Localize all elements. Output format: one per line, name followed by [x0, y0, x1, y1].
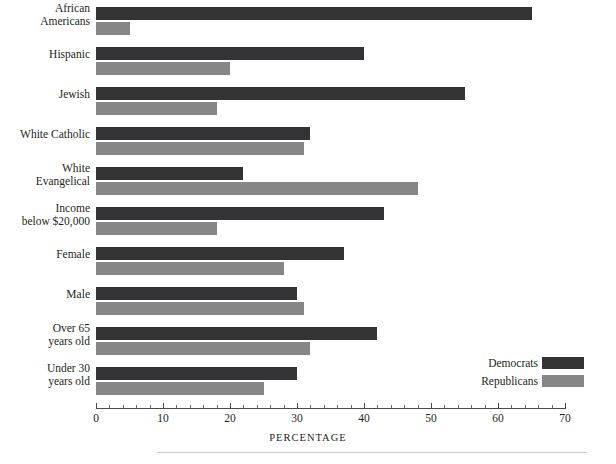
x-tick-minor: [404, 405, 405, 408]
x-tick-major: [498, 403, 499, 409]
category-label-line: Income: [4, 202, 90, 215]
legend-swatch-democrats: [542, 357, 584, 369]
category-label-line: Female: [4, 248, 90, 261]
category-label-line: Over 65: [4, 322, 90, 335]
category-label-line: Male: [4, 288, 90, 301]
bar-democrats: [96, 87, 465, 100]
x-tick-major: [364, 403, 365, 409]
x-tick-minor: [203, 405, 204, 408]
x-tick-minor: [485, 405, 486, 408]
x-tick-minor: [471, 405, 472, 408]
x-tick-minor: [310, 405, 311, 408]
x-tick-minor: [324, 405, 325, 408]
category-label: Hispanic: [4, 48, 90, 61]
bar-democrats: [96, 367, 297, 380]
bar-democrats: [96, 7, 532, 20]
category-label-line: years old: [4, 375, 90, 388]
x-tick-minor: [176, 405, 177, 408]
category-label-line: years old: [4, 335, 90, 348]
x-tick-minor: [511, 405, 512, 408]
x-tick-minor: [270, 405, 271, 408]
x-tick-minor: [377, 405, 378, 408]
bar-democrats: [96, 127, 310, 140]
bar-democrats: [96, 167, 243, 180]
x-tick-major: [230, 403, 231, 409]
x-tick-minor: [391, 405, 392, 408]
x-tick-label: 50: [425, 412, 437, 424]
category-label: Jewish: [4, 88, 90, 101]
category-label-line: White: [4, 162, 90, 175]
x-tick-minor: [552, 405, 553, 408]
x-axis-line: [96, 408, 566, 409]
legend-label-republicans: Republicans: [481, 374, 538, 388]
category-label-line: Jewish: [4, 88, 90, 101]
chart-legend: Democrats Republicans: [452, 356, 592, 392]
category-label: Male: [4, 288, 90, 301]
x-tick-minor: [458, 405, 459, 408]
x-tick-minor: [337, 405, 338, 408]
category-label: AfricanAmericans: [4, 2, 90, 27]
category-label-line: White Catholic: [4, 128, 90, 141]
category-label-line: Americans: [4, 15, 90, 28]
x-tick-minor: [538, 405, 539, 408]
bar-republicans: [96, 182, 418, 195]
x-tick-label: 30: [291, 412, 303, 424]
x-tick-minor: [217, 405, 218, 408]
x-tick-minor: [444, 405, 445, 408]
category-label: Female: [4, 248, 90, 261]
category-label-line: Evangelical: [4, 175, 90, 188]
bar-republicans: [96, 222, 217, 235]
legend-label-democrats: Democrats: [488, 356, 538, 370]
x-tick-minor: [257, 405, 258, 408]
footer-rule: [157, 452, 587, 453]
x-tick-minor: [109, 405, 110, 408]
category-label: WhiteEvangelical: [4, 162, 90, 187]
x-tick-major: [297, 403, 298, 409]
bar-democrats: [96, 247, 344, 260]
bar-republicans: [96, 142, 304, 155]
legend-swatch-republicans: [542, 375, 584, 387]
x-tick-minor: [351, 405, 352, 408]
bar-democrats: [96, 207, 384, 220]
category-label: White Catholic: [4, 128, 90, 141]
bar-republicans: [96, 102, 217, 115]
x-tick-label: 10: [157, 412, 169, 424]
legend-item-republicans: Republicans: [452, 374, 592, 389]
x-tick-minor: [190, 405, 191, 408]
x-tick-minor: [418, 405, 419, 408]
bar-republicans: [96, 342, 310, 355]
category-label: Incomebelow $20,000: [4, 202, 90, 227]
x-tick-minor: [243, 405, 244, 408]
bar-chart: AfricanAmericansHispanicJewishWhite Cath…: [0, 0, 616, 464]
bar-republicans: [96, 302, 304, 315]
x-tick-minor: [150, 405, 151, 408]
x-tick-label: 20: [224, 412, 236, 424]
bar-democrats: [96, 47, 364, 60]
category-label-line: African: [4, 2, 90, 15]
bar-republicans: [96, 382, 264, 395]
x-tick-major: [96, 403, 97, 409]
x-tick-major: [163, 403, 164, 409]
x-tick-major: [565, 403, 566, 409]
x-tick-label: 0: [93, 412, 99, 424]
bar-republicans: [96, 262, 284, 275]
x-tick-label: 40: [358, 412, 370, 424]
bar-democrats: [96, 287, 297, 300]
x-tick-minor: [284, 405, 285, 408]
x-tick-major: [431, 403, 432, 409]
category-label: Over 65years old: [4, 322, 90, 347]
legend-item-democrats: Democrats: [452, 356, 592, 371]
category-label-line: Hispanic: [4, 48, 90, 61]
x-axis-title: PERCENTAGE: [0, 432, 616, 443]
bar-republicans: [96, 22, 130, 35]
bar-republicans: [96, 62, 230, 75]
category-label: Under 30years old: [4, 362, 90, 387]
x-tick-label: 60: [492, 412, 504, 424]
category-label-line: Under 30: [4, 362, 90, 375]
x-tick-label: 70: [559, 412, 571, 424]
x-tick-minor: [525, 405, 526, 408]
category-label-line: below $20,000: [4, 215, 90, 228]
bar-democrats: [96, 327, 377, 340]
x-tick-minor: [136, 405, 137, 408]
x-tick-minor: [123, 405, 124, 408]
